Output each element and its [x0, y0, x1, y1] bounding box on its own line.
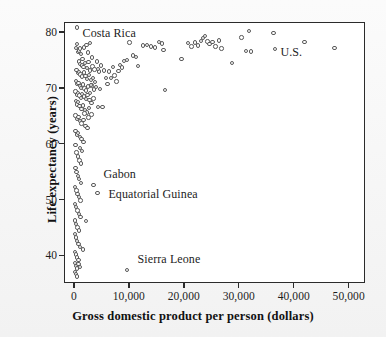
data-point: [73, 218, 77, 222]
data-point: [90, 55, 94, 59]
x-tick-label: 0: [71, 290, 77, 302]
data-point: [78, 198, 82, 202]
y-tick-mark: [59, 87, 64, 88]
data-point: [85, 77, 89, 81]
data-point: [196, 43, 200, 47]
data-point: [77, 212, 81, 216]
data-point: [90, 64, 94, 68]
y-tick-mark: [59, 255, 64, 256]
data-point: [75, 274, 79, 278]
data-point: [76, 154, 80, 158]
x-tick-mark: [238, 283, 239, 288]
data-point: [80, 92, 84, 96]
data-point: [127, 40, 131, 44]
data-point: [76, 81, 80, 85]
data-point: [78, 265, 82, 269]
data-point: [88, 91, 92, 95]
data-point: [77, 228, 81, 232]
data-point: [73, 250, 77, 254]
data-point: [91, 96, 95, 100]
x-tick-mark: [348, 283, 349, 288]
data-point: [81, 247, 85, 251]
data-point: [97, 69, 101, 73]
data-point: [98, 87, 102, 91]
data-point: [79, 96, 83, 100]
data-point: [114, 79, 118, 83]
data-point: [75, 82, 79, 86]
data-point: [92, 67, 96, 71]
data-point: [77, 104, 81, 108]
data-point: [84, 43, 88, 47]
data-point: [99, 63, 103, 67]
data-point: [73, 129, 77, 133]
data-point: [77, 158, 81, 162]
data-point: [105, 82, 109, 86]
data-point: [73, 89, 77, 93]
data-point: [136, 64, 140, 68]
data-point: [78, 119, 82, 123]
data-point: [77, 177, 81, 181]
data-point: [80, 149, 84, 153]
data-point: [76, 115, 80, 119]
data-point: [94, 85, 98, 89]
data-point: [79, 161, 83, 165]
data-point: [153, 45, 157, 49]
data-point: [81, 118, 85, 122]
data-point: [102, 68, 106, 72]
data-point: [75, 239, 79, 243]
data-point: [76, 258, 80, 262]
data-point: [81, 82, 85, 86]
data-point: [76, 242, 80, 246]
data-point: [89, 78, 93, 82]
data-point: [219, 46, 223, 50]
data-point: [78, 135, 82, 139]
data-point: [77, 48, 81, 52]
data-point: [88, 41, 92, 45]
data-point: [75, 117, 79, 121]
data-point: [82, 94, 86, 98]
data-point: [201, 36, 205, 40]
data-point: [239, 35, 243, 39]
data-point: [157, 40, 161, 44]
data-point: [74, 272, 78, 276]
data-point: [85, 93, 89, 97]
data-point: [78, 84, 82, 88]
data-point: [83, 61, 87, 65]
data-point: [73, 113, 77, 117]
data-point: [76, 50, 80, 54]
data-point: [77, 93, 81, 97]
data-point: [247, 29, 251, 33]
data-point: [78, 146, 82, 150]
figure-background: Costa RicaGabonEquatorial GuineaSierra L…: [0, 0, 386, 337]
data-point: [81, 103, 85, 107]
x-tick-label: 10,000: [113, 290, 145, 302]
x-tick-label: 50,000: [333, 290, 365, 302]
data-point: [74, 170, 78, 174]
data-point: [82, 86, 86, 90]
data-point: [332, 46, 336, 50]
data-point: [78, 62, 82, 66]
data-point: [86, 115, 90, 119]
data-point: [73, 261, 77, 265]
data-point: [74, 205, 78, 209]
data-point: [271, 31, 275, 35]
data-point: [73, 270, 77, 274]
data-point: [79, 181, 83, 185]
point-label: Sierra Leone: [138, 252, 201, 267]
data-point: [81, 140, 85, 144]
scatter-points-layer: [65, 23, 364, 282]
data-point: [77, 70, 81, 74]
data-point: [100, 105, 104, 109]
data-point: [74, 188, 78, 192]
data-point: [230, 61, 234, 65]
data-point: [75, 102, 79, 106]
data-point: [93, 80, 97, 84]
data-point: [83, 108, 87, 112]
data-point: [79, 52, 83, 56]
data-point: [73, 143, 77, 147]
data-point: [193, 40, 197, 44]
data-point: [88, 68, 92, 72]
data-point: [74, 150, 78, 154]
data-point: [74, 264, 78, 268]
data-point: [76, 91, 80, 95]
